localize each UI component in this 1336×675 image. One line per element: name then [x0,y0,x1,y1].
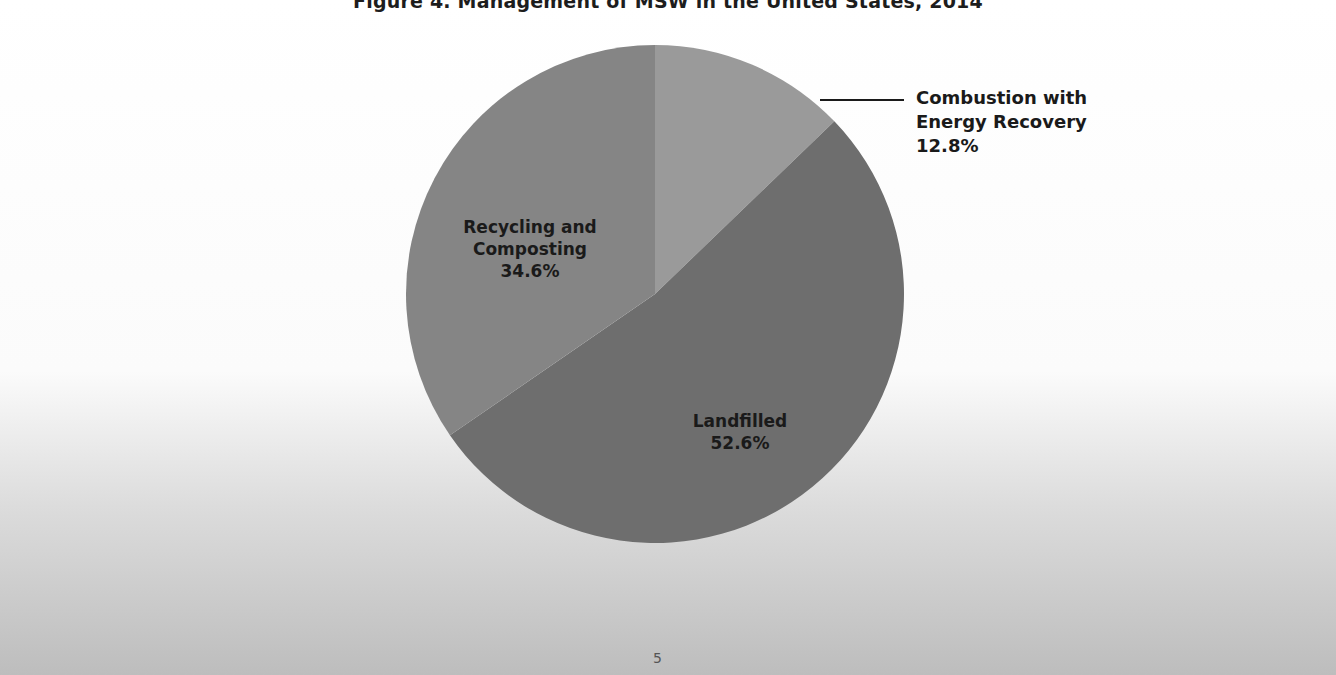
slice-label-recycling-line1: Recycling and [440,216,620,238]
slice-value-combustion: 12.8% [916,134,1087,158]
page-number: 5 [653,650,662,666]
slice-label-combustion: Combustion with Energy Recovery 12.8% [916,86,1087,158]
slice-label-combustion-line2: Energy Recovery [916,110,1087,134]
pie-chart [0,0,1336,675]
slice-label-landfilled: Landfilled 52.6% [660,410,820,454]
slice-label-landfilled-line1: Landfilled [660,410,820,432]
slice-label-recycling-line2: Composting [440,238,620,260]
slice-label-combustion-line1: Combustion with [916,86,1087,110]
slice-label-recycling: Recycling and Composting 34.6% [440,216,620,282]
slice-value-recycling: 34.6% [440,260,620,282]
slice-value-landfilled: 52.6% [660,432,820,454]
